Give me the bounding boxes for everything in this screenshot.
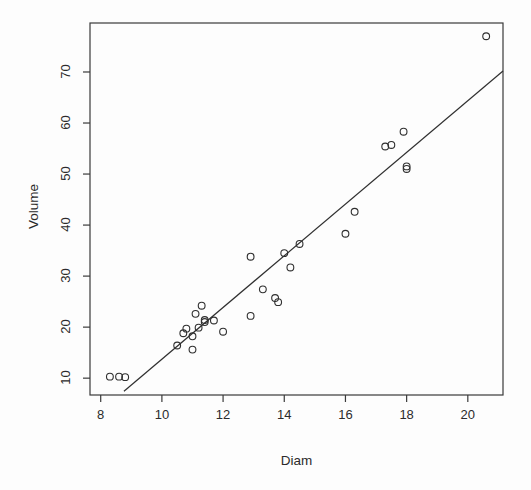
data-point xyxy=(192,310,199,317)
x-tick-label: 16 xyxy=(338,407,352,422)
y-tick-label: 60 xyxy=(58,112,73,134)
data-point xyxy=(296,241,303,248)
x-axis-ticks xyxy=(101,395,468,402)
x-tick-label: 12 xyxy=(216,407,230,422)
x-tick-label: 8 xyxy=(97,407,104,422)
plot-frame xyxy=(90,23,503,395)
data-point xyxy=(388,142,395,149)
y-tick-label: 10 xyxy=(58,367,73,389)
x-tick-label: 20 xyxy=(461,407,475,422)
data-point xyxy=(259,286,266,293)
x-tick-label: 10 xyxy=(155,407,169,422)
fit-line xyxy=(124,71,503,391)
y-tick-label: 30 xyxy=(58,265,73,287)
data-point xyxy=(483,33,490,40)
y-tick-label: 20 xyxy=(58,316,73,338)
x-axis-title: Diam xyxy=(281,453,313,468)
scatter-plot-figure: 8101214161820 10203040506070 Diam Volume xyxy=(0,0,531,490)
data-point xyxy=(342,230,349,237)
y-tick-label: 40 xyxy=(58,214,73,236)
x-tick-label: 18 xyxy=(399,407,413,422)
data-point xyxy=(400,128,407,135)
data-point xyxy=(189,346,196,353)
y-tick-label: 50 xyxy=(58,163,73,185)
plot-box xyxy=(90,23,503,395)
regression-line xyxy=(124,71,503,391)
data-point xyxy=(287,264,294,271)
y-tick-label: 70 xyxy=(58,60,73,82)
data-point xyxy=(351,208,358,215)
y-axis-ticks xyxy=(83,72,90,378)
data-points xyxy=(106,33,489,381)
data-point xyxy=(198,302,205,309)
data-point xyxy=(106,373,113,380)
data-point xyxy=(247,253,254,260)
y-axis-title: Volume xyxy=(26,180,41,234)
plot-canvas xyxy=(0,0,531,490)
data-point xyxy=(220,328,227,335)
data-point xyxy=(211,317,218,324)
data-point xyxy=(247,313,254,320)
x-tick-label: 14 xyxy=(277,407,291,422)
